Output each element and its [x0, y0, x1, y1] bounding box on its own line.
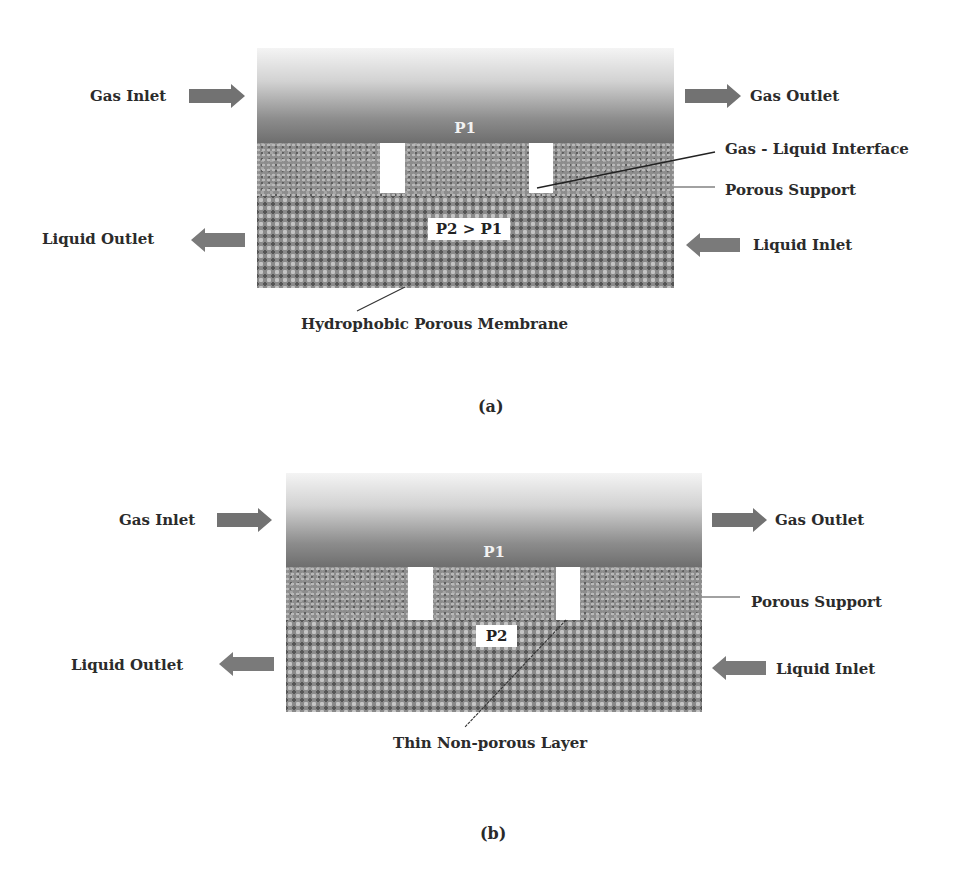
arrow-left-icon	[191, 228, 245, 252]
pressure-p2-b: P2	[476, 625, 517, 647]
interface-label-a: Gas - Liquid Interface	[725, 140, 909, 158]
liquid-inlet-label-b: Liquid Inlet	[776, 660, 875, 678]
pore-a-left	[380, 143, 405, 193]
arrow-left-icon	[219, 652, 274, 676]
module-b: P1 P2	[286, 473, 702, 712]
liquid-outlet-label-a: Liquid Outlet	[42, 230, 154, 248]
porous-support-label-b: Porous Support	[751, 593, 882, 611]
module-a: P1 P2 > P1	[257, 48, 674, 288]
arrow-left-icon	[686, 233, 740, 257]
pressure-p2-a: P2 > P1	[428, 218, 510, 240]
porous-support-b	[286, 567, 702, 621]
pore-a-right	[529, 143, 553, 193]
pressure-p1-b: P1	[474, 541, 514, 563]
arrow-right-icon	[685, 84, 741, 108]
gas-outlet-label-b: Gas Outlet	[775, 511, 864, 529]
arrow-right-icon	[189, 84, 245, 108]
membrane-leader-line	[357, 287, 405, 311]
arrow-right-icon	[712, 508, 767, 532]
pore-b-left	[408, 567, 433, 620]
porous-support-label-a: Porous Support	[725, 181, 856, 199]
liquid-outlet-label-b: Liquid Outlet	[71, 656, 183, 674]
caption-b: (b)	[480, 824, 506, 843]
caption-a: (a)	[478, 397, 504, 416]
membrane-label-a: Hydrophobic Porous Membrane	[301, 315, 568, 333]
layer-label-b: Thin Non-porous Layer	[393, 734, 587, 752]
gas-inlet-label-b: Gas Inlet	[119, 511, 195, 529]
porous-support-a	[257, 143, 674, 198]
liquid-inlet-label-a: Liquid Inlet	[753, 236, 852, 254]
arrow-left-icon	[712, 656, 766, 680]
gas-inlet-label-a: Gas Inlet	[90, 87, 166, 105]
arrow-right-icon	[217, 508, 272, 532]
pore-b-right	[556, 567, 580, 620]
pressure-p1-a: P1	[445, 117, 485, 139]
gas-outlet-label-a: Gas Outlet	[750, 87, 839, 105]
hydrophobic-membrane-a	[257, 196, 674, 288]
